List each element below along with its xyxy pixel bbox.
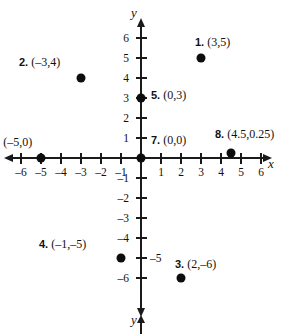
- plotted-point-dot: [77, 74, 86, 83]
- x-axis-tick: [180, 153, 182, 164]
- y-axis-tick-label: 2: [105, 112, 129, 124]
- point-label-number: 8.: [215, 128, 224, 140]
- point-label: 5. (0,3): [151, 89, 186, 102]
- y-axis-tick: [136, 217, 147, 219]
- point-label-coordinates: (0,0): [160, 133, 186, 147]
- plotted-point-dot: [177, 274, 186, 283]
- point-label-number: 1.: [195, 36, 204, 48]
- x-axis-tick: [260, 153, 262, 164]
- point-label: 7. (0,0): [151, 134, 186, 147]
- y-axis-tick: [136, 197, 147, 199]
- point-label: 1. (3,5): [195, 36, 230, 49]
- point-label-number: 5.: [151, 89, 160, 101]
- y-axis-tick: [136, 57, 147, 59]
- x-axis-tick: [80, 153, 82, 164]
- point-label-coordinates: (0,3): [160, 88, 186, 102]
- y-axis-label: y: [131, 5, 137, 21]
- y-axis-tick-label: –2: [105, 192, 129, 204]
- y-axis-tick-label: 5: [105, 52, 129, 64]
- y-axis-tick: [136, 277, 147, 279]
- y-axis-tick-label: 4: [105, 72, 129, 84]
- point-label-number: 7.: [151, 134, 160, 146]
- next-figure-y-axis-label: y: [131, 312, 137, 328]
- plotted-point-dot: [137, 94, 146, 103]
- point-label-coordinates: (–3,4): [28, 55, 60, 69]
- point-label-coordinates: (4.5,0.25): [224, 127, 274, 141]
- y-axis-tick-label: –4: [105, 232, 129, 244]
- y-axis-up-arrow-icon: [137, 18, 145, 27]
- y-axis-tick: [136, 257, 147, 259]
- y-axis-tick-label: –1: [105, 172, 129, 184]
- plotted-point-dot: [197, 54, 206, 63]
- x-axis-tick: [60, 153, 62, 164]
- y-axis-tick: [136, 77, 147, 79]
- y-axis-tick-label: –5: [150, 252, 174, 264]
- point-label: 4. (–1,–5): [39, 238, 86, 251]
- plotted-point-dot: [37, 154, 46, 163]
- y-axis-tick-label: 1: [105, 132, 129, 144]
- point-label: 6. (–5,0): [0, 136, 32, 149]
- point-label: 3. (2,–6): [175, 258, 216, 271]
- x-axis-left-arrow-icon: [4, 154, 13, 162]
- plotted-point-dot: [227, 149, 236, 158]
- y-axis-tick: [136, 177, 147, 179]
- y-axis-tick-label: –6: [105, 272, 129, 284]
- y-axis-line: [140, 26, 142, 310]
- point-label: 8. (4.5,0.25): [215, 128, 274, 141]
- plotted-point-dot: [117, 254, 126, 263]
- y-axis-tick: [136, 117, 147, 119]
- point-label-number: 4.: [39, 238, 48, 250]
- x-axis-tick: [120, 153, 122, 164]
- x-axis-tick: [100, 153, 102, 164]
- x-axis-tick: [200, 153, 202, 164]
- point-label-coordinates: (2,–6): [184, 257, 216, 271]
- plotted-point-dot: [137, 154, 146, 163]
- point-label-coordinates: (–5,0): [0, 135, 32, 149]
- point-label-coordinates: (–1,–5): [48, 237, 86, 251]
- y-axis-tick-label: –3: [105, 212, 129, 224]
- x-axis-tick: [240, 153, 242, 164]
- point-label: 2. (–3,4): [19, 56, 60, 69]
- y-axis-tick: [136, 237, 147, 239]
- point-label-number: 2.: [19, 56, 28, 68]
- y-axis-tick-label: 6: [105, 32, 129, 44]
- point-label-number: 3.: [175, 258, 184, 270]
- x-axis-tick: [160, 153, 162, 164]
- x-axis-tick: [220, 153, 222, 164]
- coordinate-plane-figure: x y y –6–5–4–3–2–1123456654321–1–2–3–4–5…: [0, 0, 287, 334]
- next-figure-y-axis-line: [140, 322, 142, 334]
- y-axis-tick: [136, 137, 147, 139]
- y-axis-tick-label: 3: [105, 92, 129, 104]
- x-axis-tick: [20, 153, 22, 164]
- y-axis-tick: [136, 37, 147, 39]
- x-axis-tick-label: 6: [249, 166, 273, 178]
- point-label-coordinates: (3,5): [204, 35, 230, 49]
